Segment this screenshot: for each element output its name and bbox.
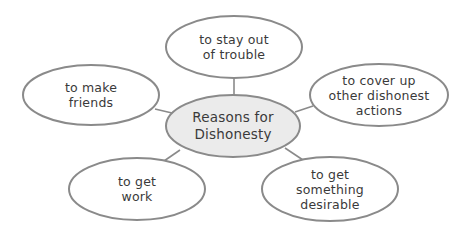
node-top-line-2: of trouble [203,47,265,62]
node-bottom-right-line-3: desirable [300,197,359,212]
node-left-label: to make friends [23,65,159,125]
center-node-label: Reasons for Dishonesty [166,95,300,157]
node-left-line-1: to make [65,80,117,95]
node-bottom-left-label: to get work [69,158,205,220]
node-top-label: to stay out of trouble [166,16,302,78]
node-bottom-right-line-1: to get [311,167,349,182]
node-bottom-right-line-2: something [296,182,364,197]
concept-map: to stay out of trouble to make friends t… [0,0,469,234]
node-bottom-left-line-1: to get [118,174,156,189]
node-top-line-1: to stay out [199,32,269,47]
node-right-line-3: actions [356,103,402,118]
node-right-line-2: other dishonest [329,88,430,103]
node-bottom-left-line-2: work [121,189,152,204]
center-node-line-2: Dishonesty [194,126,271,143]
node-right-label: to cover up other dishonest actions [310,64,448,126]
node-right-line-1: to cover up [342,73,415,88]
node-left-line-2: friends [69,95,113,110]
node-bottom-right-label: to get something desirable [262,157,398,221]
center-node-line-1: Reasons for [192,109,273,126]
